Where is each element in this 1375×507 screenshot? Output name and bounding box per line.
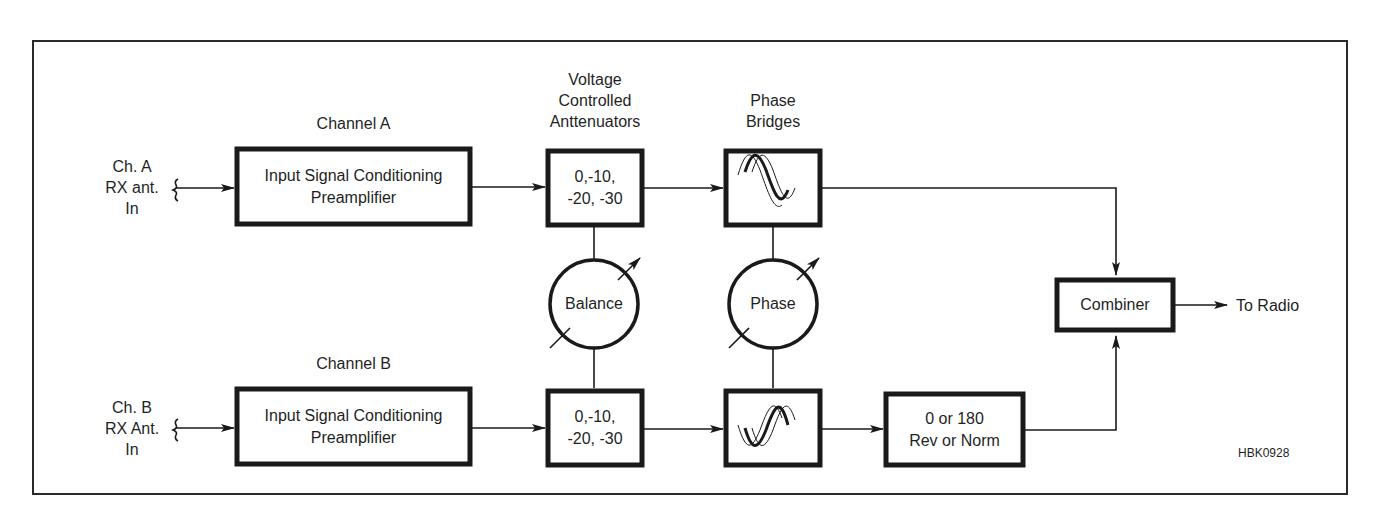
preamp-a-line-1: Input Signal Conditioning xyxy=(265,165,443,187)
input-a-line-3: In xyxy=(92,198,172,219)
channel-a-heading: Channel A xyxy=(237,113,470,134)
reverser-line-2: Rev or Norm xyxy=(909,430,1000,452)
reverser-text: 0 or 180 Rev or Norm xyxy=(889,397,1020,462)
figure-id: HBK0928 xyxy=(1238,443,1308,464)
input-a-label: Ch. A RX ant. In xyxy=(92,156,172,219)
phase-bridge-b-box xyxy=(726,391,820,465)
balance-text: Balance xyxy=(565,293,623,315)
attenuators-heading-line-1: Voltage xyxy=(535,69,655,90)
preamp-b-line-1: Input Signal Conditioning xyxy=(265,405,443,427)
phase-label: Phase xyxy=(733,292,813,316)
input-b-label: Ch. B RX Ant. In xyxy=(92,397,172,460)
input-b-line-1: Ch. B xyxy=(92,397,172,418)
input-a-bracket-icon xyxy=(173,179,178,201)
attenuators-heading-line-3: Anttenuators xyxy=(535,111,655,132)
channel-b-text: Channel B xyxy=(237,353,470,374)
phase-text: Phase xyxy=(750,293,795,315)
line-phase-a-to-combiner xyxy=(822,188,1116,275)
preamp-b-text: Input Signal Conditioning Preamplifier xyxy=(240,392,467,461)
output-label: To Radio xyxy=(1236,295,1316,316)
input-b-bracket-icon xyxy=(173,419,178,441)
input-a-line-2: RX ant. xyxy=(92,177,172,198)
outer-frame xyxy=(33,41,1347,494)
input-a-line-1: Ch. A xyxy=(92,156,172,177)
figure-id-text: HBK0928 xyxy=(1238,443,1308,464)
phase-bridges-heading: Phase Bridges xyxy=(713,90,833,132)
to-radio-text: To Radio xyxy=(1236,295,1316,316)
atten-a-text: 0,-10, -20, -30 xyxy=(551,154,639,222)
balance-label: Balance xyxy=(554,292,634,316)
combiner-text: Combiner xyxy=(1060,283,1170,327)
atten-b-line-2: -20, -30 xyxy=(567,428,622,450)
attenuators-heading: Voltage Controlled Anttenuators xyxy=(535,69,655,132)
reverser-line-1: 0 or 180 xyxy=(925,408,984,430)
preamp-b-line-2: Preamplifier xyxy=(311,427,396,449)
atten-b-line-1: 0,-10, xyxy=(575,406,616,428)
phase-bridges-heading-line-2: Bridges xyxy=(713,111,833,132)
attenuators-heading-line-2: Controlled xyxy=(535,90,655,111)
input-b-line-3: In xyxy=(92,439,172,460)
atten-a-line-1: 0,-10, xyxy=(575,166,616,188)
atten-b-text: 0,-10, -20, -30 xyxy=(551,394,639,462)
channel-a-text: Channel A xyxy=(237,113,470,134)
phase-bridges-heading-line-1: Phase xyxy=(713,90,833,111)
preamp-a-text: Input Signal Conditioning Preamplifier xyxy=(240,152,467,221)
input-b-line-2: RX Ant. xyxy=(92,418,172,439)
channel-b-heading: Channel B xyxy=(237,353,470,374)
combiner-label: Combiner xyxy=(1080,294,1149,316)
preamp-a-line-2: Preamplifier xyxy=(311,187,396,209)
block-diagram xyxy=(0,0,1375,507)
atten-a-line-2: -20, -30 xyxy=(567,188,622,210)
line-reverser-to-combiner xyxy=(1025,336,1116,430)
